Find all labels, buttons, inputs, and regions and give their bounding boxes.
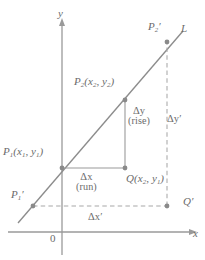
delta-x-note: (run) xyxy=(76,182,97,193)
delta-y-prime-annotation: Δy′ xyxy=(167,113,182,124)
point-marker-P1 xyxy=(60,166,65,171)
point-marker-P2prime xyxy=(165,40,170,45)
delta-x-prime-annotation: Δx′ xyxy=(88,211,103,222)
origin-label: 0 xyxy=(50,233,56,245)
point-marker-P1prime xyxy=(31,204,36,209)
point-label-P1-prime: P1′ xyxy=(11,189,24,201)
delta-x-prime-symbol: Δx′ xyxy=(88,211,103,222)
point-label-P2: P2(x2, y2) xyxy=(74,76,114,88)
delta-y-annotation: Δy (rise) xyxy=(128,105,150,127)
point-marker-Qprime xyxy=(165,204,170,209)
point-label-P1: P1(x1, y1) xyxy=(3,146,43,158)
point-label-Q: Q(x2, y1) xyxy=(126,173,164,185)
delta-x-annotation: Δx (run) xyxy=(76,171,97,193)
delta-y-prime-symbol: Δy′ xyxy=(167,113,182,124)
delta-y-note: (rise) xyxy=(128,116,150,127)
y-axis-label: y xyxy=(58,8,63,20)
point-marker-P2 xyxy=(123,98,128,103)
line-label-L: L xyxy=(181,23,187,35)
x-axis-label: x xyxy=(193,228,198,240)
point-label-P2-prime: P2′ xyxy=(148,21,161,33)
line-L xyxy=(18,31,183,223)
point-label-Q-prime: Q′ xyxy=(183,196,194,208)
point-marker-Q xyxy=(123,166,128,171)
